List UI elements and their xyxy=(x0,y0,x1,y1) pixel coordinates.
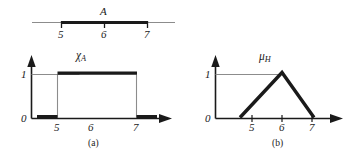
panel-b-y-axis-arrowhead xyxy=(211,55,219,67)
panel-a-function-subscript: A xyxy=(81,54,86,63)
number-line-group xyxy=(32,21,175,28)
panel-a-x-tick-label-5: 5 xyxy=(54,122,60,133)
number-line-tick-label-7: 7 xyxy=(144,29,150,40)
panel-b-y-tick-label-0: 0 xyxy=(205,113,211,124)
panel-a-function-label: χA xyxy=(76,50,86,64)
figure-root: A 5 6 7 χA 1 0 5 6 7 (a) μH 1 0 5 6 7 (b… xyxy=(0,0,357,159)
panel-a-caption: (a) xyxy=(88,139,99,149)
panel-b-vector-group xyxy=(211,55,343,123)
panel-b-triangle-curve xyxy=(240,73,314,118)
panel-b-y-tick-label-1: 1 xyxy=(205,69,211,80)
number-line-tick-label-5: 5 xyxy=(58,29,64,40)
panel-a-x-tick-label-6: 6 xyxy=(88,122,94,133)
panel-a-y-axis-arrowhead xyxy=(27,55,35,67)
panel-a-x-tick-label-7: 7 xyxy=(133,122,139,133)
panel-a-y-tick-label-0: 0 xyxy=(21,113,27,124)
number-line-tick-label-6: 6 xyxy=(101,29,107,40)
panel-a-x-axis-arrowhead xyxy=(159,114,172,123)
figure-vector-layer xyxy=(0,0,357,159)
panel-b-x-tick-label-6: 6 xyxy=(279,122,285,133)
panel-a-vector-group xyxy=(27,55,172,123)
panel-b-function-subscript: H xyxy=(265,55,271,64)
number-line-set-label: A xyxy=(100,6,107,17)
panel-b-caption: (b) xyxy=(272,139,283,149)
panel-b-x-axis-arrowhead xyxy=(330,114,343,123)
panel-b-x-tick-label-5: 5 xyxy=(249,122,255,133)
panel-b-x-tick-label-7: 7 xyxy=(309,122,315,133)
panel-a-y-tick-label-1: 1 xyxy=(21,69,27,80)
panel-b-function-label: μH xyxy=(259,51,271,65)
